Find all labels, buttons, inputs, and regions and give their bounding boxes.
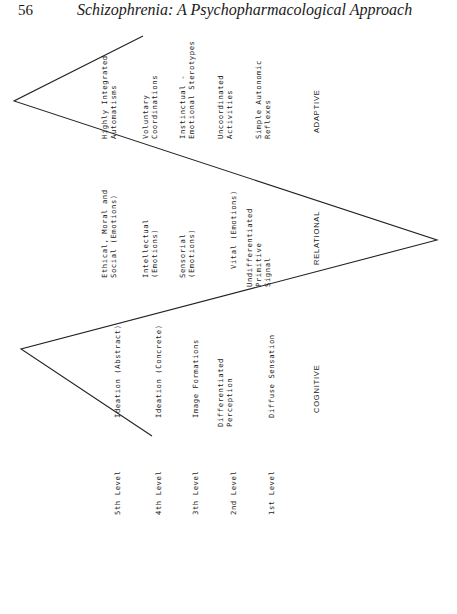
adaptive-label: ADAPTIVE	[312, 90, 321, 134]
adaptive-item-1: Simple Autonomic Reflexes	[254, 60, 272, 139]
cognitive-item-1: Diffuse Sensation	[267, 334, 276, 418]
cognitive-item-5: Ideation (Abstract)	[113, 324, 122, 418]
adaptive-item-5: Highly Integrated Automatisms	[100, 55, 118, 139]
relational-item-4: Intellectual (Emotions)	[141, 219, 159, 278]
level-1-label: 1st Level	[267, 471, 276, 515]
cognitive-label: COGNITIVE	[312, 365, 321, 413]
adaptive-item-4: Voluntary Coordinations	[141, 75, 159, 139]
relational-item-1: Undifferentiated Primitive Signal	[245, 208, 272, 287]
relational-item-3: Sensorial (Emotions)	[178, 229, 196, 278]
level-4-label: 4th Level	[154, 471, 163, 515]
cognitive-item-2: Differentiated Perception	[216, 358, 234, 427]
adaptive-item-3: Instinctual - Emotional Sterotypes	[178, 40, 196, 139]
cognitive-item-4: Ideation (Concrete)	[154, 324, 163, 418]
relational-item-5: Ethical, Moral and Social (Emotions)	[100, 189, 118, 278]
level-5-label: 5th Level	[113, 471, 122, 515]
level-3-label: 3th Level	[191, 471, 200, 515]
relational-label: RELATIONAL	[312, 211, 321, 265]
level-2-label: 2nd Level	[229, 471, 238, 515]
adaptive-item-2: Uncoordinated Activities	[216, 75, 234, 139]
relational-item-2: Vital (Emotions)	[229, 190, 238, 269]
cognitive-item-3: Image Formations	[191, 339, 200, 418]
